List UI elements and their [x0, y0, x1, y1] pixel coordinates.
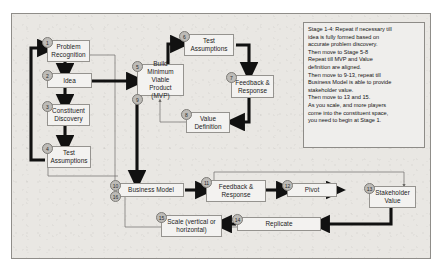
node-business-model[interactable]: Business Model [118, 183, 184, 197]
badge-12: 12 [282, 180, 293, 191]
note-line: Business Model is able to provide [308, 79, 420, 87]
node-label-line: Stakeholder [375, 189, 410, 197]
node-feedback-response-7[interactable]: Feedback & Response [231, 75, 274, 98]
node-label-line: Scale (vertical or [167, 218, 216, 226]
node-label-line: Response [219, 191, 254, 199]
note-line: idea is fully formed based on [308, 34, 420, 42]
node-label-line: horizontal) [167, 226, 216, 234]
badge-15: 15 [156, 212, 167, 223]
node-build-mvp[interactable]: Build Minimum Viable Product (MVP) [137, 64, 184, 96]
node-label-line: Feedback & [235, 79, 270, 87]
note-line: Repeat till MVP and Value [308, 56, 420, 64]
node-label-line: Discovery [52, 115, 85, 123]
node-label-line: Value [194, 115, 221, 123]
note-line: Then move to Stage 5-8 [308, 49, 420, 57]
note-line: Then move to 9-13, repeat till [308, 72, 420, 80]
node-value-definition[interactable]: Value Definition [186, 112, 230, 133]
node-label-line: Definition [194, 123, 221, 131]
node-label-line: Pivot [305, 186, 319, 194]
node-feedback-response-11[interactable]: Feedback & Response [206, 180, 266, 202]
badge-11: 11 [201, 177, 212, 188]
note-line: stakeholder value. [308, 87, 420, 95]
node-label-line: Constituent [52, 107, 85, 115]
badge-14: 14 [232, 214, 243, 225]
badge-9: 9 [132, 94, 143, 105]
badge-16: 16 [110, 191, 121, 202]
node-problem-recognition[interactable]: Problem Recognition [47, 40, 90, 62]
note-line: you need to begin at Stage 1. [308, 117, 420, 125]
note-line: As you scale, and more players [308, 102, 420, 110]
badge-3: 3 [42, 101, 53, 112]
node-label-line: Feedback & [219, 183, 254, 191]
badge-13: 13 [364, 183, 375, 194]
node-replicate[interactable]: Replicate [237, 217, 321, 231]
node-pivot[interactable]: Pivot [287, 183, 337, 197]
node-test-assumptions-4[interactable]: Test Assumptions [47, 146, 91, 168]
node-idea[interactable]: Idea [47, 73, 92, 88]
node-label-line: Replicate [265, 220, 292, 228]
node-test-assumptions-6[interactable]: Test Assumptions [184, 34, 234, 56]
node-label-line: Assumptions [190, 45, 227, 53]
node-stakeholder-value[interactable]: Stakeholder Value [369, 186, 416, 208]
note-line: definition are aligned. [308, 64, 420, 72]
node-label-line: Test [190, 37, 227, 45]
badge-8: 8 [181, 109, 192, 120]
node-label-line: Viable Product [140, 76, 181, 92]
node-label-line: Test [50, 149, 87, 157]
node-scale[interactable]: Scale (vertical or horizontal) [161, 215, 222, 237]
node-label-line: Recognition [51, 51, 85, 59]
note-line: Then move to 13 and 15. [308, 94, 420, 102]
note-line: Stage 1-4: Repeat if necessary till [308, 26, 420, 34]
badge-10: 10 [110, 180, 121, 191]
note-line: accurate problem discovery. [308, 41, 420, 49]
node-label-line: Business Model [128, 186, 174, 194]
instructions-note: Stage 1-4: Repeat if necessary till idea… [303, 22, 425, 148]
diagram-canvas: Problem Recognition 1 Idea 2 Constituent… [0, 0, 442, 270]
badge-2: 2 [42, 70, 53, 81]
node-label-line: Value [375, 197, 410, 205]
node-label-line: Build Minimum [140, 60, 181, 76]
node-constituent-discovery[interactable]: Constituent Discovery [47, 104, 90, 126]
node-label-line: Idea [63, 77, 76, 85]
node-label-line: Response [235, 87, 270, 95]
badge-6: 6 [179, 31, 190, 42]
badge-4: 4 [42, 143, 53, 154]
node-label-line: Assumptions [50, 157, 87, 165]
node-label-line: (MVP) [140, 92, 181, 100]
node-label-line: Problem [51, 43, 85, 51]
badge-7: 7 [226, 72, 237, 83]
badge-5: 5 [132, 61, 143, 72]
note-line: come into the constituent space, [308, 110, 420, 118]
badge-1: 1 [42, 37, 53, 48]
